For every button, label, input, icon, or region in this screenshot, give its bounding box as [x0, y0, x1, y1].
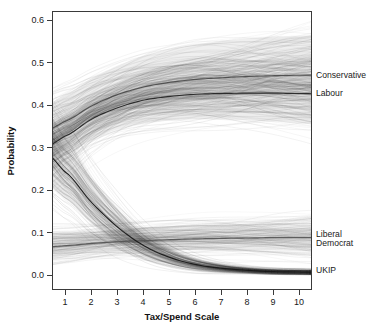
simulation-draw-curves [52, 21, 312, 275]
x-axis: 12345678910 [62, 290, 304, 308]
x-tick-label: 2 [88, 297, 93, 307]
x-tick-label: 9 [270, 297, 275, 307]
x-tick-label: 6 [192, 297, 197, 307]
series-labels: Conservative Labour Liberal Democrat UKI… [316, 70, 366, 275]
series-label-libdem-line1: Liberal [316, 229, 342, 239]
y-tick-label: 0.6 [31, 15, 44, 25]
x-tick-label: 1 [62, 297, 67, 307]
chart-figure: 0.00.10.20.30.40.50.6 12345678910 Probab… [0, 0, 373, 327]
series-label-ukip: UKIP [316, 265, 336, 275]
x-tick-label: 3 [114, 297, 119, 307]
series-label-libdem-line2: Democrat [316, 238, 354, 248]
spaghetti-plot: 0.00.10.20.30.40.50.6 12345678910 Probab… [0, 0, 373, 327]
y-tick-label: 0.3 [31, 143, 44, 153]
y-tick-label: 0.0 [31, 270, 44, 280]
x-tick-label: 8 [244, 297, 249, 307]
plot-bands-and-curves [52, 21, 312, 275]
x-axis-title: Tax/Spend Scale [145, 311, 220, 322]
y-axis: 0.00.10.20.30.40.50.6 [31, 15, 52, 280]
x-tick-label: 7 [218, 297, 223, 307]
y-tick-label: 0.1 [31, 228, 44, 238]
y-axis-title: Probability [5, 126, 16, 176]
x-tick-label: 4 [140, 297, 145, 307]
y-tick-label: 0.4 [31, 100, 44, 110]
y-tick-label: 0.2 [31, 185, 44, 195]
series-label-labour: Labour [316, 88, 343, 98]
x-tick-label: 5 [166, 297, 171, 307]
y-tick-label: 0.5 [31, 58, 44, 68]
series-label-conservative: Conservative [316, 70, 366, 80]
x-tick-label: 10 [294, 297, 304, 307]
